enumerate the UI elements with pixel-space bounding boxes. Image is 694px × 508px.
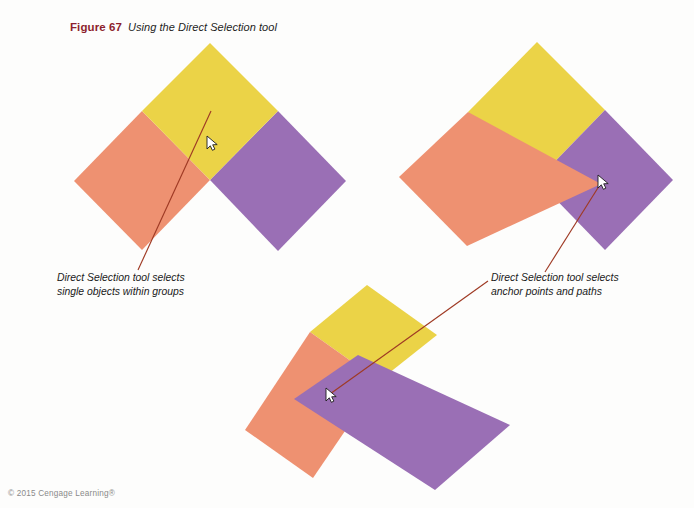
group-top-right	[399, 42, 673, 250]
figure-page: Figure 67Using the Direct Selection tool	[0, 0, 694, 508]
illustration-canvas	[0, 0, 694, 508]
group-top-left	[74, 43, 346, 251]
annotation-right: Direct Selection tool selects anchor poi…	[491, 271, 619, 299]
group-bottom	[245, 285, 510, 490]
copyright-notice: © 2015 Cengage Learning®	[8, 489, 115, 498]
annotation-right-line2: anchor points and paths	[491, 285, 619, 299]
annotation-left: Direct Selection tool selects single obj…	[57, 271, 185, 299]
annotation-left-line2: single objects within groups	[57, 285, 185, 299]
annotation-left-line1: Direct Selection tool selects	[57, 271, 185, 285]
annotation-right-line1: Direct Selection tool selects	[491, 271, 619, 285]
